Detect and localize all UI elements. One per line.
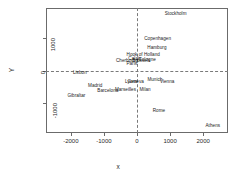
- data-point-label: Lyons: [125, 78, 137, 83]
- chart-root: AthensBarcelonaBrusselsCalaisCherbourgCo…: [0, 0, 236, 181]
- x-axis-tick-label: 2000: [196, 138, 209, 144]
- y-axis-tick: [43, 38, 46, 39]
- data-point-label: Stockholm: [165, 10, 187, 15]
- data-point-label: Copenhagen: [144, 35, 171, 40]
- x-axis-tick: [203, 133, 204, 136]
- data-point-label: Cologne: [138, 56, 155, 61]
- reference-line-vertical: [137, 8, 138, 133]
- data-point-label: Lisbon: [73, 69, 87, 74]
- x-axis-tick: [71, 133, 72, 136]
- data-point-label: Rome: [153, 107, 165, 112]
- data-point-label: Hamburg: [147, 44, 166, 49]
- data-point-label: Madrid: [88, 83, 102, 88]
- data-point-label: Gibraltar: [67, 92, 85, 97]
- x-axis-tick: [137, 133, 138, 136]
- x-axis-tick: [104, 133, 105, 136]
- y-axis-tick-label: -1000: [52, 103, 58, 118]
- y-axis-tick: [43, 103, 46, 104]
- x-axis-title: x: [0, 163, 236, 170]
- y-axis-tick-label: 0: [40, 71, 46, 74]
- data-point-label: Vienna: [160, 78, 175, 83]
- x-axis-tick-label: -1000: [96, 138, 111, 144]
- data-point-label: Marseilles: [115, 86, 136, 91]
- data-point-label: Hook of Holland: [127, 52, 160, 57]
- x-axis-tick: [170, 133, 171, 136]
- y-axis-tick-label: 1000: [50, 38, 56, 51]
- data-point-label: Athens: [206, 122, 221, 127]
- plot-area: AthensBarcelonaBrusselsCalaisCherbourgCo…: [46, 8, 228, 133]
- x-axis-tick-label: -2000: [63, 138, 78, 144]
- y-axis-title: Y: [8, 68, 15, 72]
- data-point-label: Paris: [126, 61, 137, 66]
- x-axis-tick-label: 0: [135, 138, 138, 144]
- x-axis-tick-label: 1000: [163, 138, 176, 144]
- data-point-label: Milan: [139, 86, 150, 91]
